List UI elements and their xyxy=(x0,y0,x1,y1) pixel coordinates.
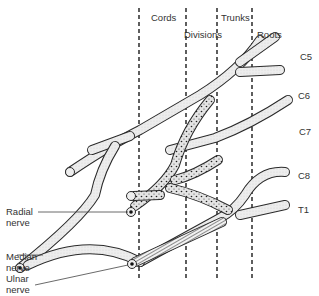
root-label-c5: C5 xyxy=(300,51,312,62)
posterior-cord xyxy=(133,100,228,210)
axillary-end xyxy=(127,192,136,201)
nerve-label-radial: Radial nerve xyxy=(6,206,33,228)
medial-cord xyxy=(135,222,222,262)
brachial-plexus-diagram xyxy=(0,0,319,296)
nerve-label-median: Median nerve xyxy=(6,251,37,273)
nerve-label-ulnar: Ulnar nerve xyxy=(6,273,30,295)
root-label-t1: T1 xyxy=(298,204,309,215)
musculocutaneous-end xyxy=(66,168,75,177)
ulnar-leader xyxy=(35,265,128,285)
root-label-c6: C6 xyxy=(298,90,310,101)
region-label-cords: Cords xyxy=(151,12,176,23)
root-label-c8: C8 xyxy=(298,170,310,181)
region-label-trunks: Trunks xyxy=(221,12,250,23)
region-label-roots: Roots xyxy=(257,29,282,40)
root-label-c7: C7 xyxy=(299,126,311,137)
region-label-divisions: Divisions xyxy=(184,29,222,40)
